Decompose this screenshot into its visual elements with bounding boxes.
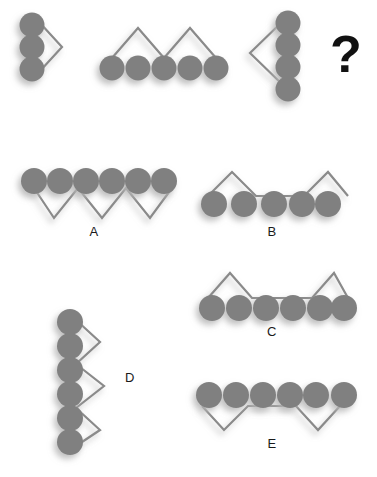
circle [253, 295, 279, 321]
prompt-2-line-group [112, 28, 216, 58]
circle [261, 191, 287, 217]
option-e-circle-group [196, 382, 357, 408]
two-peaks-flat-middle-line [208, 273, 348, 298]
circle [276, 11, 301, 36]
circle [151, 168, 177, 194]
option-a-figure[interactable] [16, 166, 184, 228]
circle [196, 382, 222, 408]
circle [20, 13, 45, 38]
option-b-graphic [196, 166, 356, 228]
prompt-3-circle-group [276, 11, 301, 102]
option-b-circle-group [201, 191, 341, 217]
circle [280, 295, 306, 321]
circle [47, 168, 73, 194]
option-e-label: E [262, 436, 282, 451]
option-d-label: D [120, 370, 140, 385]
circle [231, 191, 257, 217]
prompt-figure-1-graphic [14, 12, 84, 92]
circle [276, 77, 301, 102]
prompt-figure-1[interactable] [14, 12, 84, 92]
circle [57, 381, 83, 407]
prompt-figure-3[interactable] [240, 10, 312, 110]
prompt-figure-2[interactable] [98, 16, 230, 94]
circle [315, 191, 341, 217]
circle [331, 295, 357, 321]
option-e-figure[interactable] [192, 378, 360, 440]
option-d-circle-group [57, 309, 83, 455]
circle [126, 56, 151, 81]
circle [125, 168, 151, 194]
circle [21, 168, 47, 194]
circle [57, 357, 83, 383]
circle [20, 35, 45, 60]
prompt-figure-2-graphic [98, 16, 230, 94]
option-c-label: C [262, 324, 282, 339]
option-c-graphic [196, 266, 356, 328]
option-b-figure[interactable] [196, 166, 356, 228]
circle [100, 56, 125, 81]
option-b-label: B [262, 224, 282, 239]
circle [73, 168, 99, 194]
option-a-graphic [16, 166, 184, 228]
circle [57, 429, 83, 455]
option-c-figure[interactable] [196, 266, 356, 328]
option-c-line-group [208, 273, 348, 298]
circle [307, 295, 333, 321]
prompt-2-circle-group [100, 56, 229, 81]
double-peak-line [112, 28, 216, 58]
circle [289, 191, 315, 217]
circle [276, 33, 301, 58]
circle [99, 168, 125, 194]
puzzle-canvas: ? A [0, 0, 377, 477]
circle [199, 295, 225, 321]
prompt-figure-3-graphic [240, 10, 312, 110]
circle [204, 56, 229, 81]
circle [201, 191, 227, 217]
circle [277, 382, 303, 408]
circle [57, 309, 83, 335]
option-e-graphic [192, 378, 360, 440]
circle [276, 55, 301, 80]
two-valleys-flat-middle-line [202, 406, 340, 430]
option-e-line-group [202, 406, 340, 430]
question-mark: ? [330, 28, 362, 80]
circle [223, 382, 249, 408]
circle [250, 382, 276, 408]
circle [152, 56, 177, 81]
circle [303, 382, 329, 408]
option-a-label: A [84, 224, 104, 239]
circle [57, 333, 83, 359]
circle [226, 295, 252, 321]
circle [57, 405, 83, 431]
circle [178, 56, 203, 81]
circle [331, 382, 357, 408]
prompt-1-circle-group [20, 13, 45, 82]
circle [20, 57, 45, 82]
option-a-circle-group [21, 168, 177, 194]
